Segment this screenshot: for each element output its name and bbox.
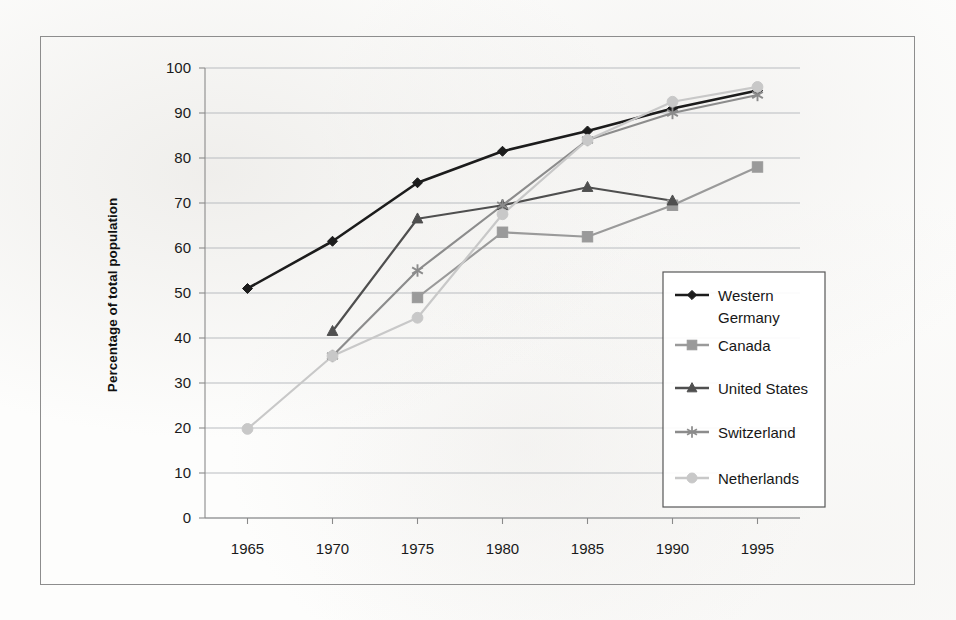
x-tick-label: 1975 [401, 540, 434, 557]
y-tick-label: 100 [166, 59, 191, 76]
y-tick-label: 60 [174, 239, 191, 256]
y-axis [199, 68, 205, 518]
y-tick-label: 70 [174, 194, 191, 211]
series-line [248, 91, 758, 289]
data-point-marker [497, 209, 508, 220]
legend-label: United States [718, 380, 808, 397]
x-tick-label: 1990 [656, 540, 689, 557]
data-point-marker [582, 181, 593, 191]
legend-label: Canada [718, 337, 771, 354]
chart-screenshot: 0102030405060708090100 19651970197519801… [0, 0, 956, 620]
x-axis [205, 518, 800, 524]
data-point-marker [582, 135, 593, 146]
y-tick-label: 40 [174, 329, 191, 346]
y-tick-label: 90 [174, 104, 191, 121]
x-tick-label: 1965 [231, 540, 264, 557]
legend-label: Netherlands [718, 470, 799, 487]
x-axis-tick-labels: 1965197019751980198519901995 [231, 540, 774, 557]
x-tick-label: 1995 [741, 540, 774, 557]
data-point-marker [752, 82, 763, 93]
legend-label: Western [718, 287, 774, 304]
data-point-marker [498, 146, 508, 156]
legend-label-continued: Germany [718, 309, 780, 326]
y-axis-title: Percentage of total population [105, 198, 120, 392]
data-point-marker [242, 424, 253, 435]
data-point-marker [667, 96, 678, 107]
y-tick-label: 50 [174, 284, 191, 301]
data-point-marker [497, 227, 507, 237]
data-point-marker [752, 162, 762, 172]
line-chart: 0102030405060708090100 19651970197519801… [0, 0, 956, 620]
legend-label: Switzerland [718, 424, 796, 441]
y-axis-tick-labels: 0102030405060708090100 [166, 59, 191, 526]
y-tick-label: 30 [174, 374, 191, 391]
data-point-marker [412, 292, 422, 302]
y-tick-label: 0 [183, 509, 191, 526]
y-tick-label: 10 [174, 464, 191, 481]
data-point-marker [687, 340, 697, 350]
chart-legend: WesternGermanyCanadaUnited StatesSwitzer… [663, 272, 825, 507]
data-point-marker [327, 351, 338, 362]
y-tick-label: 80 [174, 149, 191, 166]
data-point-marker [687, 473, 697, 483]
y-tick-label: 20 [174, 419, 191, 436]
data-point-marker [412, 312, 423, 323]
x-tick-label: 1980 [486, 540, 519, 557]
x-tick-label: 1985 [571, 540, 604, 557]
data-point-marker [582, 232, 592, 242]
x-tick-label: 1970 [316, 540, 349, 557]
data-point-marker [243, 284, 253, 294]
